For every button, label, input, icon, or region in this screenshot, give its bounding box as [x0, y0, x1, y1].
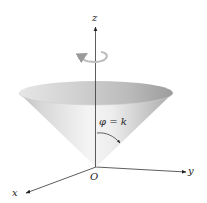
x-axis: [26, 167, 96, 193]
x-axis-label: x: [12, 188, 18, 198]
rotation-arrow-icon: [83, 52, 107, 62]
z-axis-label: z: [92, 13, 97, 23]
surface-equation-label: φ = k: [99, 117, 127, 127]
cone-diagram: [0, 0, 207, 203]
y-axis-label: y: [188, 166, 194, 176]
origin-label: O: [90, 172, 98, 182]
cone-surface: [19, 81, 173, 167]
y-axis: [96, 167, 186, 172]
